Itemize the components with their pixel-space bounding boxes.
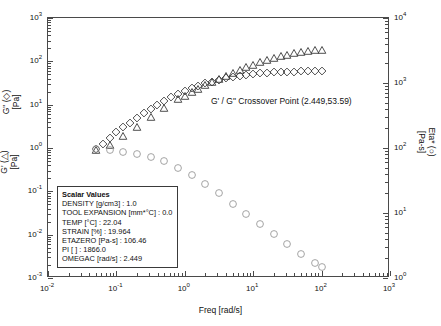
data-point-circle xyxy=(242,209,251,218)
y-right-minor-tick xyxy=(385,158,388,159)
y-left-minor-tick xyxy=(48,31,51,32)
y-left-minor-tick xyxy=(48,84,51,85)
data-point-circle xyxy=(283,240,292,249)
y-right-minor-tick xyxy=(385,182,388,183)
scalar-value-row: OMEGAC [rad/s] : 2.449 xyxy=(62,254,172,263)
data-point-diamond xyxy=(249,70,258,79)
y-left-title-bottom-unit: [Pa] xyxy=(9,154,19,169)
y-right-minor-tick xyxy=(385,128,388,129)
data-point-diamond xyxy=(167,93,176,102)
y-right-minor-tick xyxy=(385,21,388,22)
y-left-minor-tick xyxy=(48,165,51,166)
y-right-minor-tick xyxy=(385,239,388,240)
y-left-minor-tick xyxy=(48,107,51,108)
data-point-diamond xyxy=(297,67,306,76)
y-right-minor-tick xyxy=(385,24,388,25)
y-left-minor-tick xyxy=(48,22,51,23)
data-point-triangle xyxy=(249,60,258,69)
x-minor-tick xyxy=(174,273,175,276)
scalar-value-row: STRAIN [%] : 19.964 xyxy=(62,227,172,236)
y-right-minor-tick xyxy=(385,247,388,248)
y-left-major-tick xyxy=(48,61,53,62)
y-left-tick-label: 103 xyxy=(16,13,42,22)
x-minor-tick xyxy=(149,273,150,276)
y-left-minor-tick xyxy=(48,63,51,64)
data-point-triangle xyxy=(317,45,326,54)
x-minor-tick xyxy=(164,273,165,276)
data-point-triangle xyxy=(194,84,203,93)
data-point-diamond xyxy=(119,123,128,132)
x-minor-tick xyxy=(375,273,376,276)
scalar-values-panel: Scalar Values DENSITY [g/cm3] : 1.0TOOL … xyxy=(57,186,178,268)
scalar-value-row: TEMP [°C] : 22.04 xyxy=(62,218,172,227)
x-minor-tick xyxy=(226,273,227,276)
x-minor-tick xyxy=(81,273,82,276)
y-left-axis-title-gprime: G' (△) [Pa] xyxy=(0,140,19,184)
data-point-circle xyxy=(119,147,128,156)
data-point-circle xyxy=(269,230,278,239)
data-point-diamond xyxy=(228,72,237,81)
y-right-tick-label: 100 xyxy=(394,273,406,282)
data-point-circle xyxy=(228,199,237,208)
y-left-minor-tick xyxy=(48,248,51,249)
data-point-circle xyxy=(146,152,155,161)
x-minor-tick xyxy=(315,273,316,276)
data-point-diamond xyxy=(303,67,312,76)
y-left-minor-tick xyxy=(48,257,51,258)
y-left-minor-tick xyxy=(48,196,51,197)
y-left-minor-tick xyxy=(48,152,51,153)
data-point-diamond xyxy=(201,79,210,88)
data-point-circle xyxy=(132,149,141,158)
data-point-diamond xyxy=(208,77,217,86)
data-point-triangle xyxy=(297,48,306,57)
y-left-axis-title-gdoubleprime: G" (◇) [Pa] xyxy=(1,80,21,124)
x-minor-tick xyxy=(89,273,90,276)
y-left-minor-tick xyxy=(48,122,51,123)
data-point-triangle xyxy=(160,103,169,112)
y-right-title-text: Eta* (○) xyxy=(427,127,437,156)
x-minor-tick xyxy=(363,273,364,276)
x-minor-tick xyxy=(205,273,206,276)
data-point-diamond xyxy=(221,74,230,83)
data-point-diamond xyxy=(194,81,203,90)
y-left-minor-tick xyxy=(48,66,51,67)
y-right-tick-label: 103 xyxy=(394,78,406,87)
data-point-triangle xyxy=(215,74,224,83)
y-right-minor-tick xyxy=(385,117,388,118)
y-right-minor-tick xyxy=(385,86,388,87)
y-right-minor-tick xyxy=(385,193,388,194)
data-point-triangle xyxy=(228,68,237,77)
y-right-major-tick xyxy=(383,213,388,214)
y-right-title-unit: [Pa-s] xyxy=(417,131,427,153)
data-point-diamond xyxy=(91,144,100,153)
y-left-title-top-unit: [Pa] xyxy=(11,94,21,109)
y-left-minor-tick xyxy=(48,109,51,110)
y-left-title-bottom-text: G' (△) xyxy=(0,150,9,173)
data-point-circle xyxy=(91,145,100,154)
y-right-minor-tick xyxy=(385,44,388,45)
y-left-minor-tick xyxy=(48,74,51,75)
data-point-triangle xyxy=(146,112,155,121)
data-point-diamond xyxy=(160,96,169,105)
x-tick-label: 100 xyxy=(178,284,190,293)
y-left-minor-tick xyxy=(48,118,51,119)
data-point-circle xyxy=(310,259,319,268)
x-minor-tick xyxy=(217,273,218,276)
y-left-tick-label: 10-2 xyxy=(16,229,42,238)
data-point-triangle xyxy=(132,122,141,131)
y-right-minor-tick xyxy=(385,227,388,228)
x-minor-tick xyxy=(106,273,107,276)
y-left-minor-tick xyxy=(48,178,51,179)
data-point-diamond xyxy=(269,68,278,77)
x-minor-tick xyxy=(238,273,239,276)
x-minor-tick xyxy=(301,273,302,276)
x-minor-tick xyxy=(137,273,138,276)
y-left-minor-tick xyxy=(48,28,51,29)
y-left-minor-tick xyxy=(48,204,51,205)
x-minor-tick xyxy=(354,273,355,276)
y-left-minor-tick xyxy=(48,41,51,42)
y-left-minor-tick xyxy=(48,114,51,115)
y-right-tick-label: 101 xyxy=(394,208,406,217)
y-right-minor-tick xyxy=(385,151,388,152)
y-left-minor-tick xyxy=(48,237,51,238)
